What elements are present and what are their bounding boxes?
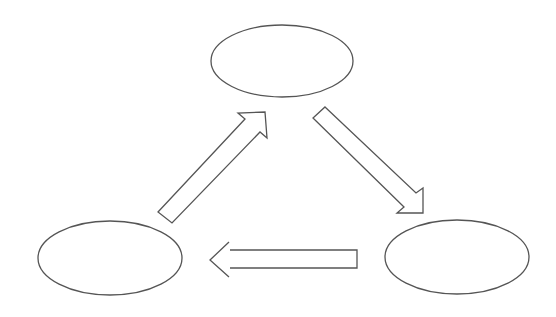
node-bottom-left bbox=[38, 221, 182, 295]
node-bottom-left-ellipse bbox=[38, 221, 182, 295]
arrow-up-right-icon bbox=[158, 112, 267, 223]
arrow-left-head bbox=[210, 242, 229, 277]
node-top bbox=[211, 25, 353, 97]
cycle-diagram bbox=[0, 0, 556, 317]
node-bottom-right-ellipse bbox=[385, 220, 529, 294]
node-bottom-right bbox=[385, 220, 529, 294]
arrow-down-right-icon bbox=[313, 107, 423, 213]
arrow-left-shaft bbox=[230, 250, 357, 268]
node-top-ellipse bbox=[211, 25, 353, 97]
arrow-left-icon bbox=[210, 242, 357, 277]
